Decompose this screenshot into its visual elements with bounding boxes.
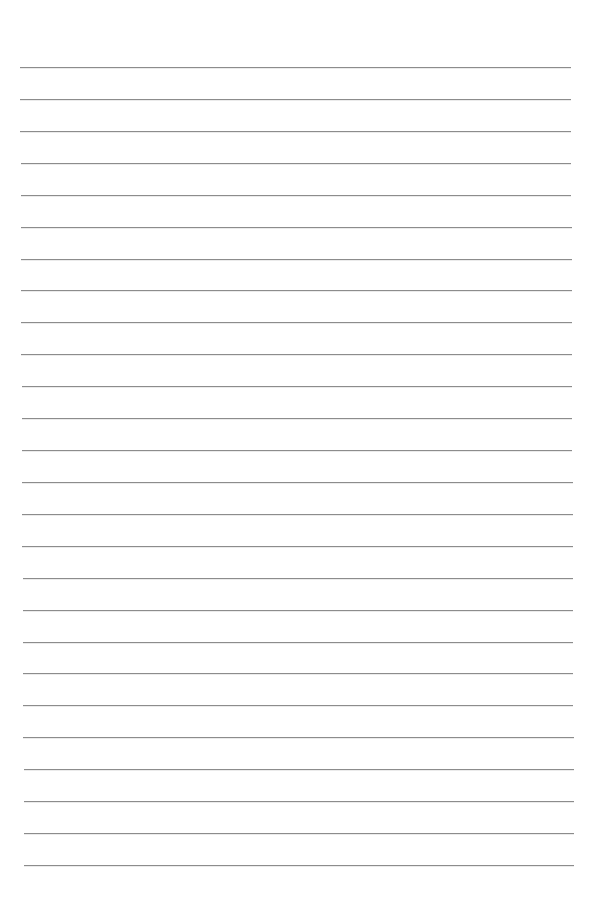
ruled-line bbox=[24, 769, 574, 770]
ruled-line bbox=[20, 67, 571, 68]
ruled-line bbox=[22, 418, 573, 419]
ruled-paper-page bbox=[0, 0, 600, 899]
ruled-line bbox=[22, 482, 573, 483]
ruled-line bbox=[20, 131, 571, 132]
ruled-line bbox=[21, 227, 572, 228]
ruled-line bbox=[22, 450, 573, 451]
ruled-line bbox=[22, 514, 572, 515]
ruled-line bbox=[21, 195, 572, 196]
ruled-line bbox=[21, 354, 572, 355]
ruled-line bbox=[23, 673, 573, 674]
ruled-line bbox=[23, 578, 573, 579]
ruled-line bbox=[23, 610, 573, 611]
ruled-line bbox=[23, 737, 573, 738]
ruled-line bbox=[21, 259, 572, 260]
ruled-line bbox=[24, 833, 574, 834]
ruled-line bbox=[21, 290, 572, 291]
ruled-line bbox=[21, 163, 572, 164]
ruled-line bbox=[22, 386, 573, 387]
ruled-line bbox=[24, 801, 574, 802]
ruled-line bbox=[22, 546, 572, 547]
ruled-line bbox=[23, 642, 573, 643]
ruled-line bbox=[20, 99, 571, 100]
ruled-line bbox=[23, 705, 573, 706]
ruled-line bbox=[21, 322, 572, 323]
ruled-line bbox=[24, 865, 574, 866]
